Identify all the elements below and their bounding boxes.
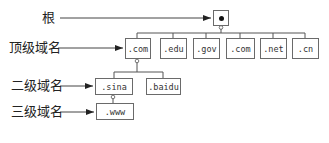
sld-node-baidu: .baidu [146, 78, 181, 95]
tld-node-com-2: .com [226, 38, 255, 59]
tld-node-com: .com [125, 38, 151, 59]
root-node [213, 10, 229, 26]
tld-node-gov: .gov [193, 38, 220, 59]
tld-node-cn: .cn [292, 38, 319, 59]
tld-node-edu: .edu [160, 38, 187, 59]
root-dot-icon [219, 16, 224, 21]
dns-hierarchy-diagram: 根 顶级域名 二级域名 三级域名 .com .edu .gov .com .ne… [0, 0, 329, 143]
sld-node-sina: .sina [95, 78, 133, 95]
figure-caption-faint [115, 133, 215, 140]
third-level-node-www: .www [96, 103, 134, 120]
root-label: 根 [42, 11, 55, 25]
second-level-domain-label: 二级域名 [11, 79, 63, 93]
third-level-domain-label: 三级域名 [11, 105, 63, 119]
top-level-domain-label: 顶级域名 [9, 41, 61, 55]
tld-node-net: .net [260, 38, 287, 59]
